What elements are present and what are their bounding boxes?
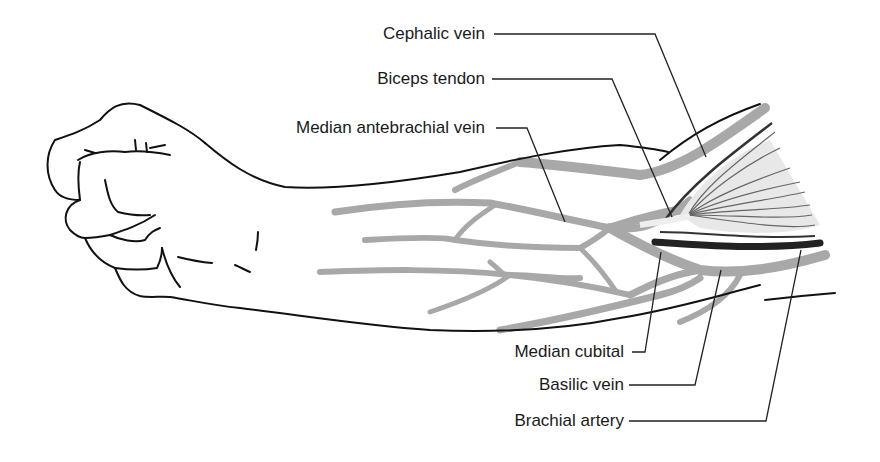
biceps-muscle (640, 123, 820, 237)
label-median-antebrachial-vein: Median antebrachial vein (230, 118, 485, 138)
leader-cephalic-vein (494, 34, 706, 157)
label-brachial-artery: Brachial artery (440, 411, 624, 431)
label-median-cubital: Median cubital (440, 342, 624, 362)
label-cephalic-vein: Cephalic vein (300, 24, 485, 44)
label-biceps-tendon: Biceps tendon (300, 69, 485, 89)
label-basilic-vein: Basilic vein (440, 375, 624, 395)
forearm-vein-diagram: Cephalic vein Biceps tendon Median anteb… (0, 0, 880, 462)
brachial-artery (655, 242, 820, 247)
